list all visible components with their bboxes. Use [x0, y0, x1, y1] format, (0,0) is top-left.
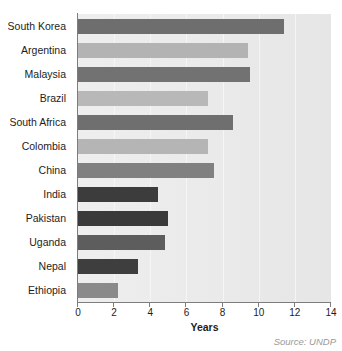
x-tick-label: 10: [253, 308, 264, 318]
bar: [78, 163, 214, 178]
category-label: India: [0, 182, 72, 206]
category-label: Argentina: [0, 38, 72, 62]
category-label: Malaysia: [0, 62, 72, 86]
bar-row: [78, 14, 331, 38]
category-axis-labels: South KoreaArgentinaMalaysiaBrazilSouth …: [0, 14, 72, 302]
bar-row: [78, 38, 331, 62]
bar-row: [78, 230, 331, 254]
bar-series: [78, 14, 331, 302]
category-label: Uganda: [0, 230, 72, 254]
bar: [78, 187, 158, 202]
bar: [78, 91, 208, 106]
x-tick-label: 8: [220, 308, 226, 318]
bar: [78, 283, 118, 298]
category-label: Pakistan: [0, 206, 72, 230]
bar-row: [78, 158, 331, 182]
bar-chart: South KoreaArgentinaMalaysiaBrazilSouth …: [0, 0, 342, 351]
x-tick-label: 0: [75, 308, 81, 318]
bar-row: [78, 62, 331, 86]
bar-row: [78, 206, 331, 230]
x-tick-label: 4: [148, 308, 154, 318]
bar: [78, 43, 248, 58]
category-label: Colombia: [0, 134, 72, 158]
y-axis-line: [77, 13, 78, 303]
bar-row: [78, 182, 331, 206]
plot-area: [78, 14, 331, 302]
bar-row: [78, 110, 331, 134]
x-tick-label: 12: [289, 308, 300, 318]
x-tick-label: 14: [325, 308, 336, 318]
bar: [78, 211, 168, 226]
category-label: Nepal: [0, 254, 72, 278]
bar-row: [78, 86, 331, 110]
category-label: Brazil: [0, 86, 72, 110]
bar-row: [78, 278, 331, 302]
bar: [78, 19, 284, 34]
x-tick-label: 6: [184, 308, 190, 318]
bar-row: [78, 134, 331, 158]
category-label: Ethiopia: [0, 278, 72, 302]
category-label: South Africa: [0, 110, 72, 134]
bar: [78, 139, 208, 154]
bar: [78, 259, 138, 274]
x-axis-title: Years: [78, 322, 331, 333]
category-label: South Korea: [0, 14, 72, 38]
bar-row: [78, 254, 331, 278]
category-label: China: [0, 158, 72, 182]
x-tick-label: 2: [111, 308, 117, 318]
bar: [78, 115, 233, 130]
bar: [78, 67, 250, 82]
source-note: Source: UNDP: [274, 337, 336, 347]
bar: [78, 235, 165, 250]
